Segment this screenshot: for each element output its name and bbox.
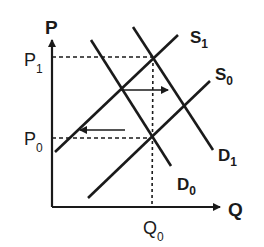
s1-label: S1	[190, 28, 208, 51]
q0-label: Q0	[143, 218, 164, 244]
supply-demand-diagram: P Q P1 P0 Q0 S1 S0 D1 D0	[0, 0, 264, 247]
s0-label: S0	[215, 65, 233, 88]
y-axis-label: P	[45, 17, 58, 38]
q0-guide	[152, 57, 153, 207]
d0-label: D0	[177, 175, 196, 198]
p1-label: P1	[24, 50, 43, 76]
demand-curve-d0	[91, 40, 171, 166]
supply-curve-s0	[88, 81, 210, 198]
supply-curve-s1	[55, 35, 178, 152]
x-axis-label: Q	[228, 199, 243, 220]
d1-label: D1	[218, 146, 237, 169]
p0-label: P0	[24, 129, 43, 155]
